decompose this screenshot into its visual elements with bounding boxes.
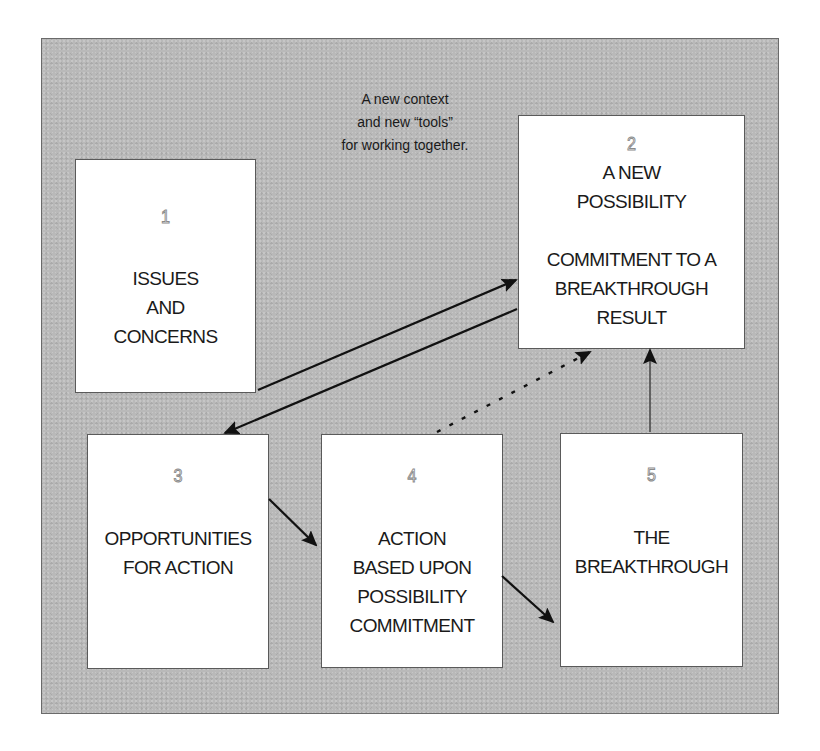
- box-issues-and-concerns: 1 ISSUES AND CONCERNS: [75, 159, 256, 393]
- box-label: THE BREAKTHROUGH: [561, 523, 742, 581]
- box-new-possibility: 2 A NEW POSSIBILITY COMMITMENT TO A BREA…: [518, 115, 745, 349]
- box-opportunities-for-action: 3 OPPORTUNITIES FOR ACTION: [87, 434, 269, 669]
- box-number: 4: [336, 465, 489, 487]
- box-action-based-upon-possibility: 4 ACTION BASED UPON POSSIBILITY COMMITME…: [321, 434, 503, 668]
- box-number: 5: [575, 464, 729, 486]
- box-label: ISSUES AND CONCERNS: [76, 264, 255, 351]
- box-number: 3: [102, 465, 255, 487]
- box-number: 1: [89, 206, 241, 228]
- box-label: ACTION BASED UPON POSSIBILITY COMMITMENT: [322, 524, 502, 640]
- box-the-breakthrough: 5 THE BREAKTHROUGH: [560, 433, 743, 667]
- box-label: OPPORTUNITIES FOR ACTION: [88, 524, 268, 582]
- box-label: A NEW POSSIBILITY COMMITMENT TO A BREAKT…: [519, 158, 744, 332]
- annotation-new-context: A new context and new “tools” for workin…: [330, 88, 480, 157]
- box-number: 2: [536, 133, 727, 155]
